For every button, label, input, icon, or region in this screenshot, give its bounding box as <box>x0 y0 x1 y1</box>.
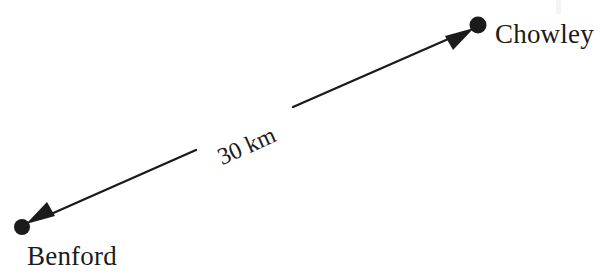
arrowhead-chowley-icon <box>445 28 474 50</box>
distance-diagram: Chowley Benford 30 km <box>0 0 608 277</box>
scan-artifact <box>556 0 561 14</box>
node-label-chowley: Chowley <box>495 21 594 48</box>
connector-line-left-segment <box>42 150 196 218</box>
node-dot-chowley-icon <box>470 17 487 34</box>
connector-line-right-segment <box>293 33 462 107</box>
node-label-benford: Benford <box>27 243 117 270</box>
node-dot-benford-icon <box>14 219 30 235</box>
arrowhead-benford-icon <box>26 202 55 224</box>
